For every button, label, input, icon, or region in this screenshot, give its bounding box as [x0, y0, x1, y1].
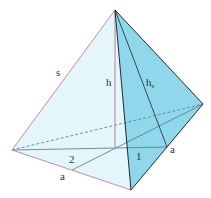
- label-s: s: [56, 66, 60, 78]
- label-h: h: [106, 76, 112, 88]
- label-ratio-2: 2: [69, 153, 75, 165]
- label-ratio-1: 1: [136, 150, 142, 162]
- label-a-right: a: [170, 143, 175, 155]
- pyramid-diagram: s h hs 2 1 a a: [0, 0, 211, 198]
- label-a-left: a: [60, 170, 65, 182]
- pyramid-svg: s h hs 2 1 a a: [0, 0, 211, 198]
